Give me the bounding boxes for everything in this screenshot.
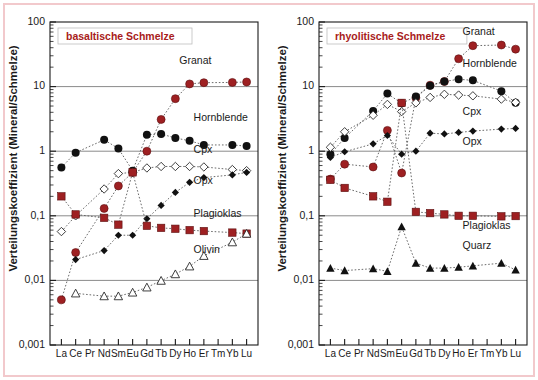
data-point-cpx <box>426 93 434 101</box>
data-point-cpx <box>469 92 477 100</box>
series-label-quarz: Quarz <box>463 239 492 251</box>
plot-frame <box>50 22 258 345</box>
data-point-hornblende <box>57 163 65 171</box>
data-point-plagioklas <box>369 193 376 200</box>
data-point-olivin <box>185 262 193 270</box>
series-label-hornblende: Hornblende <box>194 111 248 123</box>
data-point-granat <box>57 296 65 304</box>
data-point-opx <box>186 179 193 186</box>
data-point-quarz <box>497 259 505 267</box>
data-point-olivin <box>143 283 151 291</box>
data-point-granat <box>469 42 477 50</box>
x-axis-tick-label: Tb <box>155 348 167 359</box>
x-axis-tick-label: Sm <box>380 348 395 359</box>
data-point-hornblende <box>243 142 251 150</box>
x-axis-tick-label: Tm <box>480 348 494 359</box>
data-point-cpx <box>383 100 391 108</box>
y-axis-tick-label: 0,001 <box>19 338 45 350</box>
data-point-opx <box>498 125 505 132</box>
data-point-plagioklas <box>115 221 122 228</box>
data-point-hornblende <box>469 76 477 84</box>
x-axis-tick-label: Er <box>468 348 479 359</box>
x-axis-tick-label: Ce <box>69 348 82 359</box>
data-point-cpx <box>157 162 165 170</box>
data-point-granat <box>114 182 122 190</box>
data-point-plagioklas <box>157 224 164 231</box>
data-point-quarz <box>511 266 519 274</box>
data-point-granat <box>497 41 505 49</box>
y-axis-tick-label: 100 <box>27 15 45 27</box>
data-point-quarz <box>412 259 420 267</box>
data-point-plagioklas <box>412 208 419 215</box>
panel-rhyolitic-melt: 1001010,10,010,001LaCePrNdSmEuGdTbDyHoEr… <box>269 0 538 380</box>
x-axis-tick-label: Pr <box>354 348 365 359</box>
data-point-cpx <box>143 164 151 172</box>
x-axis-tick-label: Eu <box>127 348 139 359</box>
data-point-plagioklas <box>327 176 334 183</box>
x-axis-tick-label: Nd <box>367 348 380 359</box>
x-axis-tick-label: La <box>325 348 337 359</box>
data-point-plagioklas <box>58 193 65 200</box>
series-connector-hornblende <box>61 134 246 171</box>
data-point-opx <box>172 189 179 196</box>
data-point-quarz <box>369 264 377 272</box>
data-point-hornblende <box>157 130 165 138</box>
y-axis-title: Verteilungskoeffizient (Mineral/Schmelze… <box>276 45 288 271</box>
data-point-plagioklas <box>172 225 179 232</box>
data-point-granat <box>455 55 463 63</box>
data-point-granat <box>157 115 165 123</box>
x-axis-tick-label: Yb <box>495 348 508 359</box>
data-point-cpx <box>440 90 448 98</box>
data-point-granat <box>512 45 520 53</box>
y-axis-tick-label: 1 <box>39 144 45 156</box>
panel-basaltic-melt: 1001010,10,010,001LaCePrNdSmEuGdTbDyHoEr… <box>0 0 269 380</box>
y-axis-tick-label: 10 <box>33 79 45 91</box>
y-axis-tick-label: 0,01 <box>25 273 46 285</box>
data-point-plagioklas <box>512 212 519 219</box>
data-point-cpx <box>454 91 462 99</box>
y-axis-tick-label: 100 <box>296 15 314 27</box>
data-point-hornblende <box>72 149 80 157</box>
data-point-olivin <box>71 289 79 297</box>
series-connector-plagioklas <box>330 103 515 216</box>
data-point-granat <box>200 79 208 87</box>
series-label-plagioklas: Plagioklas <box>463 219 511 231</box>
data-point-cpx <box>171 162 179 170</box>
y-axis-tick-label: 1 <box>308 144 314 156</box>
series-connector-olivin <box>76 234 247 297</box>
x-axis-tick-label: Eu <box>396 348 408 359</box>
series-label-olivin: Olivin <box>194 243 220 255</box>
series-label-cpx: Cpx <box>463 105 482 117</box>
x-axis-tick-label: Dy <box>169 348 181 359</box>
x-axis-tick-label: Nd <box>98 348 111 359</box>
data-point-cpx <box>397 107 405 115</box>
data-point-plagioklas <box>384 198 391 205</box>
data-point-hornblende <box>440 77 448 85</box>
data-point-plagioklas <box>398 99 405 106</box>
series-connector-cpx <box>61 166 246 231</box>
series-label-hornblende: Hornblende <box>463 57 517 69</box>
x-axis-tick-label: Ce <box>338 348 351 359</box>
data-point-opx <box>341 148 348 155</box>
data-point-hornblende <box>100 136 108 144</box>
data-point-granat <box>228 78 236 86</box>
data-point-quarz <box>326 264 334 272</box>
series-label-granat: Granat <box>463 25 495 37</box>
data-point-cpx <box>200 163 208 171</box>
x-axis-tick-label: Gd <box>140 348 153 359</box>
data-point-hornblende <box>228 141 236 149</box>
data-point-cpx <box>497 95 505 103</box>
data-point-granat <box>398 169 406 177</box>
data-point-opx <box>370 140 377 147</box>
data-point-hornblende <box>186 137 194 145</box>
data-point-plagioklas <box>441 211 448 218</box>
data-point-plagioklas <box>229 229 236 236</box>
data-point-quarz <box>383 267 391 275</box>
data-point-hornblende <box>171 134 179 142</box>
data-point-opx <box>441 130 448 137</box>
data-point-granat <box>100 204 108 212</box>
x-axis-tick-label: La <box>56 348 68 359</box>
data-point-hornblende <box>143 131 151 139</box>
x-axis-tick-label: Tm <box>211 348 225 359</box>
y-axis-tick-label: 0,1 <box>299 209 314 221</box>
